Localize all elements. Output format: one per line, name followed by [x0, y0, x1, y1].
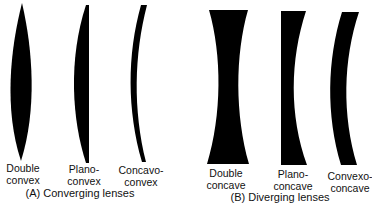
concavo-convex-lens: [131, 5, 147, 162]
label-line1: Double: [6, 162, 39, 174]
label-convexo-concave: Convexo- concave: [328, 170, 372, 194]
label-line1: Plano-: [273, 168, 312, 180]
label-line2: concave: [206, 179, 245, 191]
label-line1: Double: [206, 167, 245, 179]
label-line2: convex: [67, 175, 100, 187]
label-line2: concave: [328, 182, 372, 194]
label-double-convex: Double convex: [6, 162, 39, 186]
label-concavo-convex: Concavo- convex: [119, 164, 164, 188]
convexo-concave-lens: [330, 12, 359, 165]
label-line2: convex: [6, 174, 39, 186]
caption-diverging-lenses: (B) Diverging lenses: [230, 191, 329, 204]
plano-convex-lens: [74, 5, 89, 163]
label-plano-concave: Plano- concave: [273, 168, 312, 192]
label-line1: Concavo-: [119, 164, 164, 176]
label-line1: Convexo-: [328, 170, 372, 182]
label-line1: Plano-: [67, 163, 100, 175]
plano-concave-lens: [281, 11, 307, 165]
double-convex-lens: [10, 3, 31, 161]
caption-converging-lenses: (A) Converging lenses: [26, 187, 135, 200]
double-concave-lens: [207, 10, 249, 164]
label-double-concave: Double concave: [206, 167, 245, 191]
label-plano-convex: Plano- convex: [67, 163, 100, 187]
